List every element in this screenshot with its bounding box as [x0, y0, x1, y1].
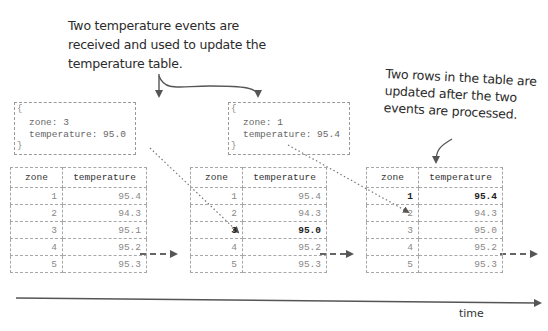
zone-cell: 3 — [191, 222, 243, 239]
temperature-cell: 94.3 — [419, 205, 503, 222]
open-brace: { — [17, 104, 22, 114]
event-zone-field: zone: 1 — [243, 117, 283, 128]
right-note-arrow — [436, 139, 452, 162]
temperature-table-after-event-1: zone temperature 195.4 294.3 395.0 495.2… — [190, 167, 327, 273]
table-row: 495.2 — [367, 239, 503, 256]
zone-cell: 1 — [191, 188, 243, 205]
temperature-cell: 95.3 — [243, 256, 327, 273]
header-zone: zone — [191, 168, 243, 188]
zone-cell: 2 — [367, 205, 419, 222]
event-temperature-field: temperature: 95.0 — [29, 129, 126, 140]
header-zone: zone — [11, 168, 63, 188]
timeline-label: time — [459, 307, 484, 320]
zone-cell: 5 — [11, 256, 63, 273]
zone-cell: 3 — [367, 222, 419, 239]
temperature-cell: 95.1 — [63, 222, 147, 239]
temperature-cell: 95.4 — [63, 188, 147, 205]
zone-cell: 1 — [11, 188, 63, 205]
event-zone-field: zone: 3 — [29, 117, 69, 128]
temperature-cell: 95.2 — [419, 239, 503, 256]
table-row: 195.4 — [11, 188, 147, 205]
temperature-cell: 94.3 — [243, 205, 327, 222]
temperature-cell: 95.4 — [243, 188, 327, 205]
header-temperature: temperature — [63, 168, 147, 188]
table-header-row: zone temperature — [367, 168, 503, 188]
close-brace: } — [17, 141, 22, 151]
table-row-updated: 195.4 — [367, 188, 503, 205]
temperature-cell: 95.4 — [419, 188, 503, 205]
zone-cell: 4 — [11, 239, 63, 256]
table-row: 595.3 — [191, 256, 327, 273]
zone-cell: 1 — [367, 188, 419, 205]
table-header-row: zone temperature — [191, 168, 327, 188]
zone-cell: 3 — [11, 222, 63, 239]
zone-cell: 4 — [191, 239, 243, 256]
table-row: 195.4 — [191, 188, 327, 205]
right-annotation: Two rows in the table are updated after … — [383, 65, 545, 124]
table-row: 294.3 — [11, 205, 147, 222]
temperature-cell: 95.2 — [243, 239, 327, 256]
temperature-cell: 95.3 — [63, 256, 147, 273]
close-brace: } — [231, 141, 236, 151]
temperature-event-zone-1: { zone: 1 temperature: 95.4 } — [228, 102, 350, 155]
event-fanout-arrow — [159, 74, 258, 96]
temperature-cell: 95.3 — [419, 256, 503, 273]
table-row-updated: 395.0 — [191, 222, 327, 239]
temperature-event-zone-3: { zone: 3 temperature: 95.0 } — [14, 102, 136, 155]
temperature-table-after-event-2: zone temperature 195.4 294.3 395.0 495.2… — [366, 167, 503, 273]
header-temperature: temperature — [243, 168, 327, 188]
temperature-cell: 95.0 — [243, 222, 327, 239]
temperature-cell: 95.0 — [419, 222, 503, 239]
open-brace: { — [231, 104, 236, 114]
table-row: 495.2 — [191, 239, 327, 256]
table-row: 294.3 — [191, 205, 327, 222]
zone-cell: 5 — [367, 256, 419, 273]
temperature-table-initial: zone temperature 195.4 294.3 395.1 495.2… — [10, 167, 147, 273]
timeline-arrow — [16, 298, 540, 303]
table-row: 395.0 — [367, 222, 503, 239]
header-zone: zone — [367, 168, 419, 188]
temperature-cell: 94.3 — [63, 205, 147, 222]
zone-cell: 2 — [191, 205, 243, 222]
table-row: 294.3 — [367, 205, 503, 222]
zone-cell: 2 — [11, 205, 63, 222]
zone-cell: 5 — [191, 256, 243, 273]
table-row: 495.2 — [11, 239, 147, 256]
header-temperature: temperature — [419, 168, 503, 188]
table-row: 595.3 — [11, 256, 147, 273]
zone-cell: 4 — [367, 239, 419, 256]
table-row: 595.3 — [367, 256, 503, 273]
left-annotation: Two temperature events are received and … — [68, 16, 278, 73]
table-row: 395.1 — [11, 222, 147, 239]
table-header-row: zone temperature — [11, 168, 147, 188]
event-temperature-field: temperature: 95.4 — [243, 129, 340, 140]
temperature-cell: 95.2 — [63, 239, 147, 256]
